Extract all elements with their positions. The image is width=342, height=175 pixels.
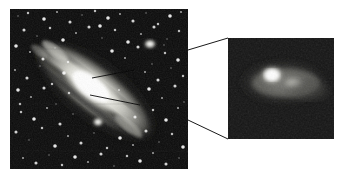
wide-field-panel[interactable] [10, 9, 188, 169]
film-grain [10, 9, 188, 169]
astronomy-figure: Andromeda Galaxy (M31) wide field with m… [0, 0, 342, 175]
nucleus-inset-panel[interactable] [228, 38, 334, 139]
nucleus-closeup-image [228, 38, 334, 139]
connector-bottom [188, 120, 228, 139]
inset-film-grain [228, 38, 334, 139]
connector-top [188, 38, 228, 50]
wide-field-sky [10, 9, 188, 169]
